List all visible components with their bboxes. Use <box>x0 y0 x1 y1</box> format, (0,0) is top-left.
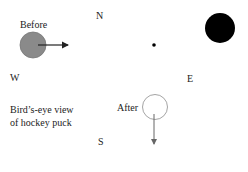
center-dot <box>152 43 156 47</box>
before-label: Before <box>20 19 47 31</box>
after-puck <box>143 95 168 120</box>
black-puck <box>205 13 235 43</box>
caption-line-2: of hockey puck <box>10 117 72 129</box>
after-label: After <box>117 102 138 114</box>
east-label: E <box>187 73 193 85</box>
west-label: W <box>10 72 19 84</box>
north-label: N <box>96 10 103 22</box>
caption-line-1: Bird’s-eye view <box>10 104 74 116</box>
south-label: S <box>98 136 104 148</box>
